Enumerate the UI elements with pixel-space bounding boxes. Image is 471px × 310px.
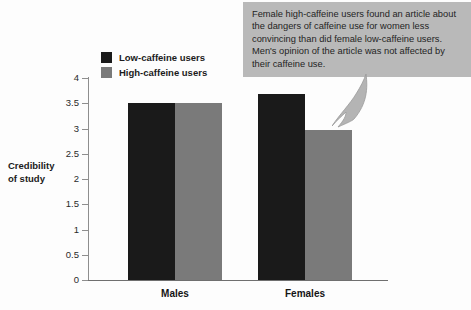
y-axis-tick-label: 2.5 bbox=[66, 148, 79, 159]
y-axis-tick: 1.5 bbox=[82, 204, 88, 205]
legend-swatch-icon bbox=[101, 52, 112, 63]
legend-item-label: High-caffeine users bbox=[119, 67, 207, 78]
bar-males-high-caffeine-users bbox=[175, 103, 222, 280]
y-axis-tick-label: 3.5 bbox=[66, 97, 79, 108]
x-axis-line bbox=[88, 280, 388, 281]
x-axis-label-females: Females bbox=[258, 288, 352, 299]
y-axis-tick-label: 0.5 bbox=[66, 249, 79, 260]
annotation-callout: Female high-caffeine users found an arti… bbox=[243, 2, 471, 77]
chart-legend: Low-caffeine usersHigh-caffeine users bbox=[101, 51, 207, 81]
y-axis-tick: 4 bbox=[82, 78, 88, 79]
x-axis-label-males: Males bbox=[128, 288, 222, 299]
y-axis-tick: 0 bbox=[82, 280, 88, 281]
bar-females-high-caffeine-users bbox=[305, 130, 352, 280]
y-axis-title-line-1: Credibility bbox=[8, 160, 76, 173]
y-axis-tick-label: 1 bbox=[74, 224, 79, 235]
y-axis-tick-label: 0 bbox=[74, 274, 79, 285]
annotation-callout-text: Female high-caffeine users found an arti… bbox=[252, 8, 463, 70]
y-axis-tick-label: 2 bbox=[74, 173, 79, 184]
y-axis-tick: 1 bbox=[82, 230, 88, 231]
legend-item-label: Low-caffeine users bbox=[119, 52, 205, 63]
chart-figure: Credibility of study Low-caffeine usersH… bbox=[0, 0, 471, 310]
y-axis-tick-label: 4 bbox=[74, 72, 79, 83]
y-axis-title: Credibility of study bbox=[8, 160, 76, 185]
annotation-arrow-icon bbox=[332, 74, 374, 132]
y-axis-tick: 3.5 bbox=[82, 103, 88, 104]
legend-item: High-caffeine users bbox=[101, 66, 207, 79]
bar-males-low-caffeine-users bbox=[128, 103, 175, 280]
bar-females-low-caffeine-users bbox=[258, 94, 305, 280]
y-axis-tick-label: 3 bbox=[74, 123, 79, 134]
legend-item: Low-caffeine users bbox=[101, 51, 207, 64]
y-axis-tick: 2.5 bbox=[82, 154, 88, 155]
y-axis-tick-label: 1.5 bbox=[66, 198, 79, 209]
y-axis-title-line-2: of study bbox=[8, 173, 76, 186]
y-axis-tick: 2 bbox=[82, 179, 88, 180]
y-axis-tick: 0.5 bbox=[82, 255, 88, 256]
legend-swatch-icon bbox=[101, 67, 112, 78]
y-axis-tick: 3 bbox=[82, 129, 88, 130]
